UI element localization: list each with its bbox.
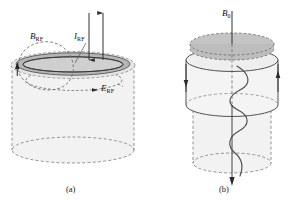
physics-figure [0,0,289,207]
panel-a-cylinder-body [12,65,134,163]
label-e-rf: ERF [101,83,114,93]
b0-arrowhead [229,177,234,186]
caption-panel-b: (b) [219,184,229,194]
panel-b [184,11,281,186]
label-i-rf: IRF [74,31,85,41]
label-b-rf: BRF [30,31,43,41]
caption-panel-a: (a) [66,184,75,194]
label-b-zero: B0 [222,8,231,18]
